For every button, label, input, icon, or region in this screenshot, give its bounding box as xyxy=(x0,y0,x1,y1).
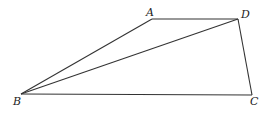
label-D: D xyxy=(240,8,250,21)
segment-BC xyxy=(21,94,252,95)
label-B: B xyxy=(12,95,21,108)
segment-BD xyxy=(21,19,238,94)
segment-AB xyxy=(21,19,152,94)
segment-DC xyxy=(238,19,252,95)
label-A: A xyxy=(145,6,154,19)
label-C: C xyxy=(250,95,259,108)
quadrilateral-diagram: A D B C xyxy=(0,0,267,113)
